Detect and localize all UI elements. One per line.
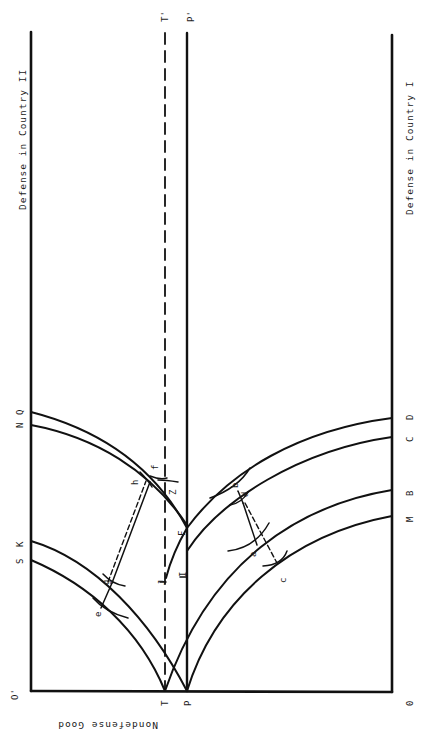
label-point-c: c: [278, 578, 288, 583]
label-point-f: f: [150, 465, 160, 470]
tie-line-d-a: [243, 503, 257, 545]
label-M: M: [405, 516, 415, 522]
axis-nondefense-bottom: [31, 691, 392, 692]
label-S: S: [15, 559, 25, 564]
label-T: T: [160, 700, 170, 706]
curve-M: [187, 516, 392, 691]
label-origin-I: 0: [405, 701, 415, 706]
label-C: C: [405, 437, 415, 442]
label-origin-II: O': [10, 689, 20, 700]
label-point-h: h: [130, 480, 140, 485]
tie-line-g-h: [112, 482, 150, 583]
curve-N-arc: [31, 425, 187, 545]
label-point-F: F: [177, 531, 187, 536]
indifference-arc-z: [158, 480, 178, 482]
label-point-I: I: [178, 572, 188, 577]
curve-N-main: [31, 425, 187, 528]
curve-N-visible: [31, 425, 187, 525]
curve-N: [31, 425, 187, 528]
curve-D-ext: [165, 528, 187, 691]
indifference-arc-a: [228, 523, 269, 551]
label-point-g: g: [101, 580, 111, 585]
indifference-arc-c: [263, 551, 287, 566]
label-point-b: b: [230, 483, 240, 488]
label-Q: Q: [15, 410, 25, 415]
label-point-d: d: [240, 492, 250, 497]
label-P-prime: P': [186, 11, 196, 22]
label-point-J: J: [157, 580, 167, 585]
label-T-prime: T': [160, 11, 170, 22]
label-N: N: [15, 423, 25, 428]
label-K: K: [15, 541, 25, 547]
label-point-Z: Z: [168, 489, 178, 495]
tie-line-g-h-dashed: [108, 481, 146, 582]
label-P: P: [183, 700, 193, 706]
curve-K: [31, 541, 187, 691]
tie-line-e-g: [101, 583, 112, 608]
label-point-e: e: [93, 612, 103, 617]
curve-D: [187, 418, 392, 528]
label-nondefense-good: Nondefense Good: [57, 720, 158, 731]
label-defense-country-I: Defense in Country I: [404, 81, 415, 215]
label-defense-country-II: Defense in Country II: [17, 69, 28, 210]
curve-C-left: [174, 551, 187, 574]
production-possibility-diagram: Defense in Country II Defense in Country…: [0, 0, 433, 738]
label-B: B: [405, 491, 415, 496]
label-D: D: [405, 415, 415, 420]
label-point-a: a: [248, 552, 258, 557]
